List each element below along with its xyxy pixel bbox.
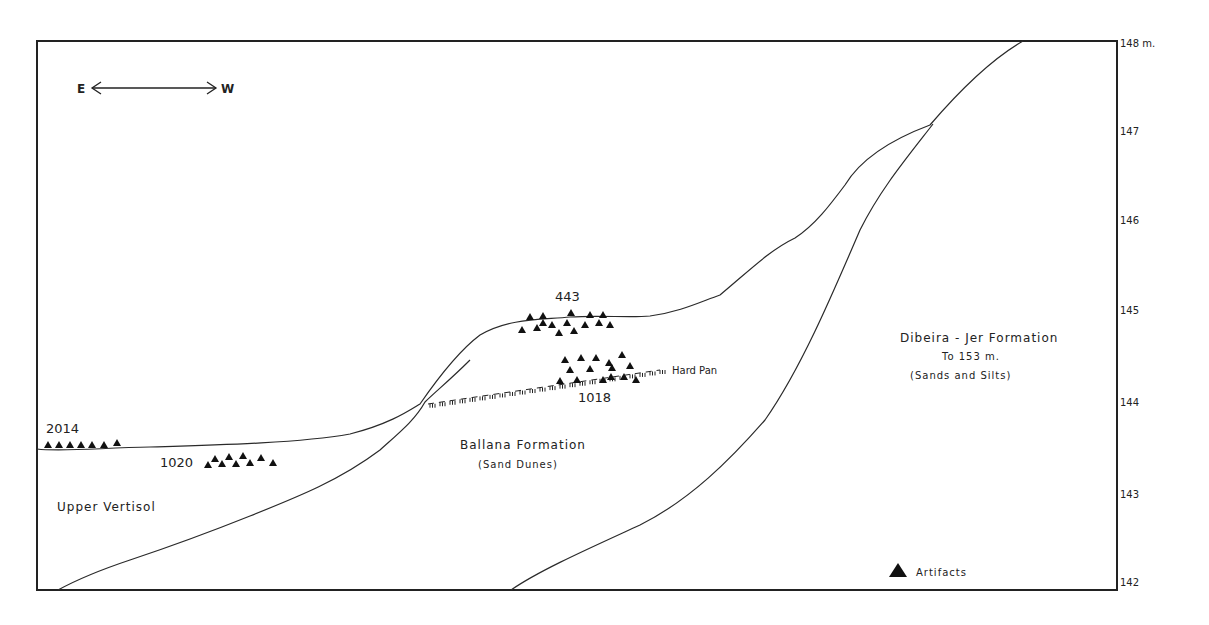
- dibeira-jer-depth-label: To 153 m.: [941, 351, 1000, 362]
- artifact-triangle-icon: [66, 441, 74, 448]
- ballana-formation-sublabel: (Sand Dunes): [478, 459, 558, 470]
- artifact-triangle-icon: [573, 376, 581, 383]
- artifact-triangle-icon: [113, 439, 121, 446]
- artifact-triangle-icon: [626, 362, 634, 369]
- artifact-triangle-icon: [586, 365, 594, 372]
- artifact-triangle-icon: [618, 351, 626, 358]
- artifact-triangle-icon: [555, 329, 563, 336]
- artifact-triangle-icon: [563, 319, 571, 326]
- legend-artifacts-label: Artifacts: [916, 567, 967, 578]
- site-label-1018: 1018: [578, 390, 611, 405]
- orientation-arrow: E W: [77, 82, 234, 96]
- artifact-triangle-icon: [100, 441, 108, 448]
- artifact-triangle-icon: [211, 455, 219, 462]
- artifact-triangle-icon: [595, 319, 603, 326]
- artifact-triangle-icon: [55, 441, 63, 448]
- axis-tick-148: 148 m.: [1120, 38, 1155, 49]
- axis-tick-144: 144: [1120, 397, 1139, 408]
- stratigraphic-cross-section: 148 m. 147 146 145 144 143 142 E W Hard …: [0, 0, 1209, 625]
- ballana-formation-label: Ballana Formation: [460, 438, 586, 452]
- ballana-vertisol-boundary: [58, 360, 470, 590]
- artifact-triangle-icon: [889, 563, 907, 577]
- artifact-triangle-icon: [539, 319, 547, 326]
- upper-vertisol-label: Upper Vertisol: [57, 500, 156, 514]
- dibeira-jer-formation-label: Dibeira - Jer Formation: [900, 331, 1058, 345]
- artifact-triangle-icon: [225, 453, 233, 460]
- artifact-triangle-icon: [599, 311, 607, 318]
- east-label: E: [77, 82, 85, 96]
- artifact-triangle-icon: [566, 366, 574, 373]
- artifact-triangle-icon: [606, 321, 614, 328]
- artifact-triangle-icon: [620, 373, 628, 380]
- artifact-triangle-icon: [239, 452, 247, 459]
- artifact-triangle-icon: [592, 354, 600, 361]
- artifact-triangle-icon: [257, 454, 265, 461]
- site-label-1020: 1020: [160, 455, 193, 470]
- axis-tick-143: 143: [1120, 489, 1139, 500]
- axis-tick-146: 146: [1120, 215, 1139, 226]
- artifact-triangle-icon: [44, 441, 52, 448]
- artifact-triangle-icon: [246, 459, 254, 466]
- artifact-triangle-icon: [518, 326, 526, 333]
- west-label: W: [221, 82, 234, 96]
- artifact-triangle-icon: [218, 460, 226, 467]
- artifact-triangle-icon: [204, 461, 212, 468]
- artifact-triangle-icon: [232, 460, 240, 467]
- artifact-triangle-icon: [269, 459, 277, 466]
- dibeira-ballana-boundary: [511, 124, 933, 590]
- artifact-triangle-icon: [632, 376, 640, 383]
- artifact-triangle-icon: [567, 309, 575, 316]
- axis-tick-142: 142: [1120, 577, 1139, 588]
- artifact-triangle-icon: [586, 311, 594, 318]
- hard-pan-marker: [428, 370, 665, 408]
- artifact-triangle-icon: [88, 441, 96, 448]
- legend: Artifacts: [889, 563, 967, 578]
- dibeira-jer-sublabel: (Sands and Silts): [910, 370, 1011, 381]
- artifact-triangle-icon: [526, 313, 534, 320]
- hard-pan-label: Hard Pan: [672, 365, 717, 376]
- artifact-triangle-icon: [77, 441, 85, 448]
- artifact-triangle-icon: [570, 327, 578, 334]
- artifact-triangle-icon: [581, 321, 589, 328]
- artifact-triangle-icon: [548, 321, 556, 328]
- site-label-2014: 2014: [46, 421, 79, 436]
- artifact-triangle-icon: [561, 356, 569, 363]
- site-label-443: 443: [555, 289, 580, 304]
- artifact-triangle-icon: [577, 354, 585, 361]
- artifact-triangle-icon: [539, 312, 547, 319]
- axis-tick-145: 145: [1120, 305, 1139, 316]
- artifact-triangle-icon: [556, 377, 564, 384]
- axis-tick-147: 147: [1120, 126, 1139, 137]
- elevation-axis: 148 m. 147 146 145 144 143 142: [1120, 38, 1155, 588]
- diagram-frame: [37, 41, 1117, 590]
